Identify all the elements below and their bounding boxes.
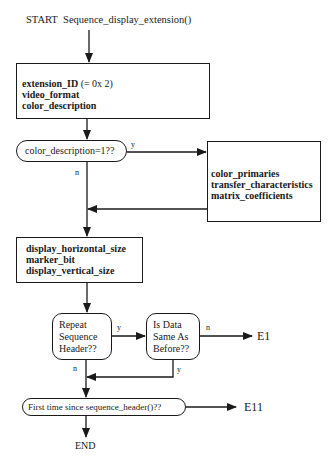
branch-no-label: n <box>73 364 77 373</box>
start-label: START Sequence_display_extension() <box>26 14 191 26</box>
error-terminal-e1: E1 <box>257 329 270 343</box>
branch-yes-label: y <box>117 323 121 332</box>
error-terminal-e11: E11 <box>244 400 263 414</box>
decision-line: Is Data <box>153 319 182 331</box>
field-name: extension_ID <box>22 78 78 89</box>
decision-first-time-since-sequence-header: First time since sequence_header()?? <box>22 398 186 416</box>
field-value: (= 0x 2) <box>78 78 113 89</box>
decision-label: First time since sequence_header()?? <box>28 401 161 413</box>
start-keyword: START <box>26 14 58 25</box>
decision-repeat-sequence-header: Repeat Sequence Header?? <box>52 313 112 360</box>
decision-data-same-as-before: Is Data Same As Before?? <box>146 313 200 360</box>
start-function: Sequence_display_extension() <box>63 14 191 25</box>
process-box-header-fields: extension_ID (= 0x 2) video_format color… <box>16 63 210 119</box>
branch-no-label: n <box>206 323 210 332</box>
field-display-vertical-size: display_vertical_size <box>26 265 114 277</box>
branch-no-label: n <box>75 168 79 177</box>
end-terminal: END <box>75 440 96 452</box>
process-box-color-fields: color_primaries transfer_characteristics… <box>207 141 321 222</box>
field-matrix-coefficients: matrix_coefficients <box>211 190 293 202</box>
decision-line: Sequence <box>59 331 97 343</box>
decision-line: Before?? <box>153 343 189 355</box>
branch-yes-label: y <box>131 140 135 149</box>
process-box-display-fields: display_horizontal_size marker_bit displ… <box>16 237 143 283</box>
decision-line: Header?? <box>59 343 97 355</box>
decision-line: Repeat <box>59 319 87 331</box>
decision-line: Same As <box>153 331 188 343</box>
decision-color-description: color_description=1?? <box>16 140 127 162</box>
field-color-description: color_description <box>22 100 96 112</box>
decision-label: color_description=1?? <box>25 145 115 157</box>
branch-yes-label: y <box>177 365 181 374</box>
